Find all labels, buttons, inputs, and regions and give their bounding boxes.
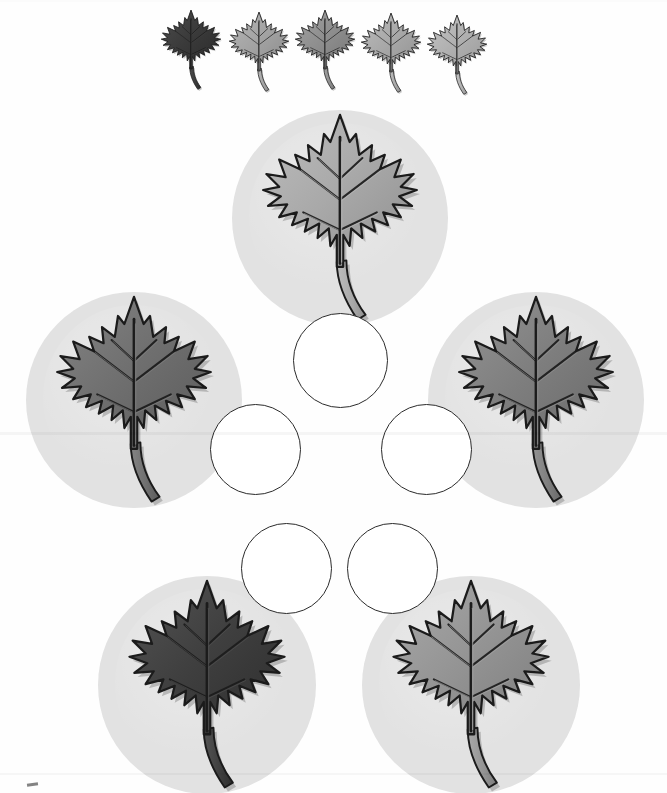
- key-leaf-darkest[interactable]: [160, 8, 222, 92]
- key-leaf-light[interactable]: [228, 10, 290, 94]
- key-leaf-lighter[interactable]: [360, 11, 422, 95]
- answer-circle-bottom-left[interactable]: [241, 523, 332, 614]
- big-leaf-top: [232, 110, 448, 326]
- leaf-shade-key: [160, 8, 530, 94]
- worksheet-page: [0, 0, 667, 793]
- answer-circle-left[interactable]: [210, 404, 301, 495]
- big-leaf-left: [26, 292, 242, 508]
- answer-circle-right[interactable]: [381, 404, 472, 495]
- key-leaf-lightest[interactable]: [426, 13, 488, 97]
- faint-pencil-mark: [27, 782, 38, 786]
- leaf-disk-left[interactable]: [26, 292, 242, 508]
- answer-circle-top[interactable]: [293, 313, 388, 408]
- leaf-disk-top[interactable]: [232, 110, 448, 326]
- answer-circle-bottom-right[interactable]: [347, 523, 438, 614]
- scan-artifact-band: [0, 0, 667, 2]
- key-leaf-medium[interactable]: [294, 8, 356, 92]
